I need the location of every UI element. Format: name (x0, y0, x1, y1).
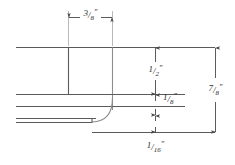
dimension-label-width-top: 3/8" (83, 8, 99, 22)
inch-mark: " (161, 140, 165, 149)
dimension-width-top: 3/8" (69, 8, 112, 22)
dimension-label-eighth-inch: 1/8" (163, 92, 178, 106)
dimension-height-overall: 7/8" (209, 48, 224, 132)
drawing-svg: 3/8" 1/2" 1/8" 1/16" (0, 0, 235, 165)
technical-drawing-canvas: 3/8" 1/2" 1/8" 1/16" (0, 0, 235, 165)
dimension-height-upper-step: 1/2" (149, 48, 164, 94)
dimension-label-overall-height: 7/8" (209, 83, 224, 97)
dimension-label-half-inch: 1/2" (149, 64, 164, 78)
dimension-height-middle-band: 1/8" (156, 92, 178, 115)
dimension-label-sixteenth-inch: 1/16" (147, 140, 165, 154)
inch-mark: " (94, 8, 98, 17)
inch-mark: " (219, 83, 223, 92)
inch-mark: " (174, 92, 178, 101)
dimension-height-bottom-band: 1/16" (147, 116, 165, 154)
inch-mark: " (159, 64, 163, 73)
part-profile (16, 48, 215, 133)
